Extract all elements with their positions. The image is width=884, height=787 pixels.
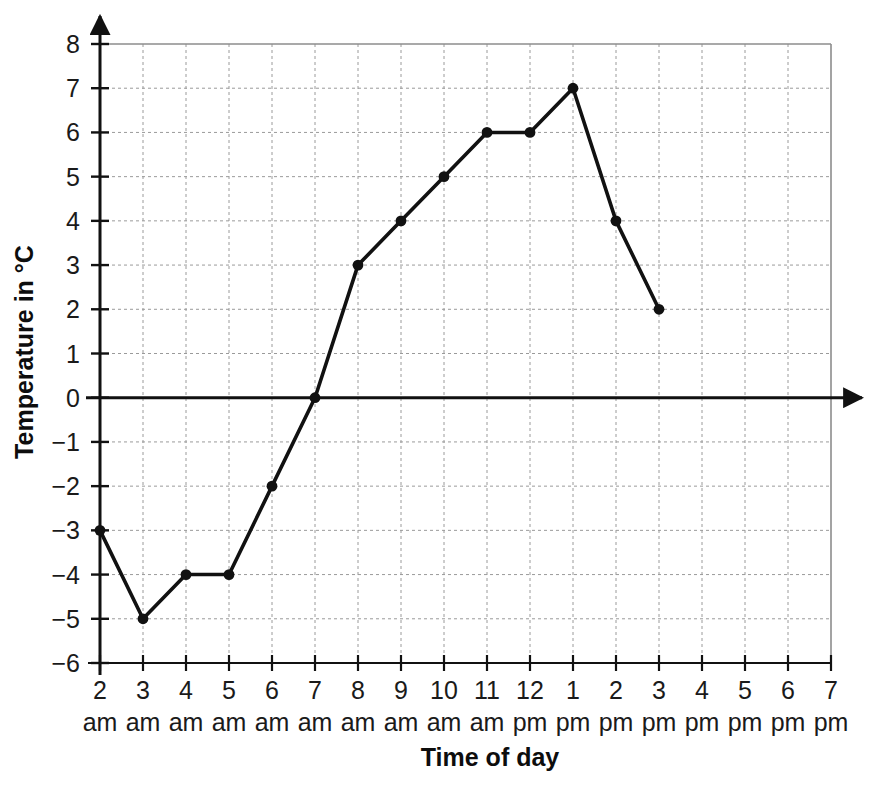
y-tick-label: 2: [66, 295, 80, 323]
x-tick-label-number: 6: [781, 676, 795, 704]
x-tick-label-meridiem: pm: [513, 708, 548, 736]
y-tick-label: 8: [66, 30, 80, 58]
y-tick-label: 1: [66, 340, 80, 368]
x-tick-label-number: 7: [824, 676, 838, 704]
data-point: [181, 569, 192, 580]
data-point: [654, 304, 665, 315]
x-tick-label-number: 3: [136, 676, 150, 704]
data-point: [611, 215, 622, 226]
y-tick-label: −3: [51, 516, 80, 544]
x-tick-label-number: 2: [609, 676, 623, 704]
horizontal-gridlines: [100, 88, 831, 663]
x-tick-label-number: 7: [308, 676, 322, 704]
x-tick-label-meridiem: pm: [728, 708, 763, 736]
y-tick-label: 3: [66, 251, 80, 279]
chart-canvas: 876543210−1−2−3−4−5−6 2am3am4am5am6am7am…: [0, 0, 884, 787]
x-tick-label-meridiem: pm: [814, 708, 849, 736]
data-point: [396, 215, 407, 226]
x-tick-label-meridiem: am: [427, 708, 462, 736]
x-tick-label-meridiem: am: [298, 708, 333, 736]
x-tick-label-meridiem: am: [212, 708, 247, 736]
y-axis-title: Temperature in °C: [10, 245, 38, 459]
data-point: [138, 613, 149, 624]
x-tick-label-number: 1: [566, 676, 580, 704]
y-tick-label: −1: [51, 428, 80, 456]
y-tick-label: 5: [66, 163, 80, 191]
data-point: [353, 260, 364, 271]
data-point: [95, 525, 106, 536]
x-tick-label-meridiem: am: [126, 708, 161, 736]
y-tick-label: −4: [51, 561, 80, 589]
x-tick-label-meridiem: pm: [685, 708, 720, 736]
y-tick-label: −5: [51, 605, 80, 633]
x-axis-title: Time of day: [421, 743, 560, 771]
x-tick-label-number: 2: [93, 676, 107, 704]
x-tick-label-number: 6: [265, 676, 279, 704]
x-tick-label-number: 3: [652, 676, 666, 704]
data-point: [525, 127, 536, 138]
y-tick-label: 7: [66, 74, 80, 102]
x-tick-label-meridiem: pm: [556, 708, 591, 736]
data-point: [267, 481, 278, 492]
data-point: [568, 83, 579, 94]
x-tick-label-meridiem: pm: [642, 708, 677, 736]
x-tick-label-number: 10: [430, 676, 458, 704]
x-tick-label-meridiem: am: [169, 708, 204, 736]
x-tick-label-number: 8: [351, 676, 365, 704]
data-point: [224, 569, 235, 580]
y-tick-label: −2: [51, 472, 80, 500]
x-tick-label-number: 5: [738, 676, 752, 704]
y-tick-label: 6: [66, 118, 80, 146]
temperature-line-chart: 876543210−1−2−3−4−5−6 2am3am4am5am6am7am…: [0, 0, 884, 787]
x-tick-label-meridiem: am: [470, 708, 505, 736]
x-tick-label-number: 5: [222, 676, 236, 704]
data-point: [482, 127, 493, 138]
x-tick-label-meridiem: am: [341, 708, 376, 736]
y-axis-tick-labels: 876543210−1−2−3−4−5−6: [51, 30, 80, 677]
x-tick-label-meridiem: pm: [599, 708, 634, 736]
x-axis-tick-labels: 2am3am4am5am6am7am8am9am10am11am12pm1pm2…: [83, 676, 849, 736]
x-tick-label-meridiem: am: [255, 708, 290, 736]
x-tick-label-number: 4: [695, 676, 709, 704]
y-tick-label: 0: [66, 384, 80, 412]
x-tick-label-meridiem: pm: [771, 708, 806, 736]
y-tick-label: −6: [51, 649, 80, 677]
x-tick-label-meridiem: am: [83, 708, 118, 736]
data-point: [310, 392, 321, 403]
x-tick-label-number: 9: [394, 676, 408, 704]
data-point: [439, 171, 450, 182]
y-tick-label: 4: [66, 207, 80, 235]
x-tick-label-number: 4: [179, 676, 193, 704]
x-tick-label-number: 11: [474, 676, 500, 704]
x-tick-label-number: 12: [516, 676, 544, 704]
x-tick-label-meridiem: am: [384, 708, 419, 736]
